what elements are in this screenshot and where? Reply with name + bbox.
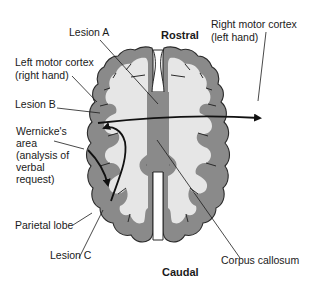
right-hemisphere (163, 47, 230, 242)
left-hemisphere (87, 47, 154, 242)
wernicke-label-4: verbal (16, 161, 45, 174)
wernicke-label-5: request) (16, 173, 55, 186)
brain-diagram: Lesion A Rostral Right motor cortex (lef… (0, 0, 316, 287)
caudal-label: Caudal (162, 266, 199, 279)
brain-section-illustration (0, 0, 316, 287)
right-motor-cortex-sublabel: (left hand) (211, 31, 258, 44)
longitudinal-fissure-caudal (153, 172, 163, 240)
left-motor-cortex-sublabel: (right hand) (15, 69, 69, 82)
left-motor-cortex-label: Left motor cortex (15, 56, 94, 69)
longitudinal-fissure-rostral (152, 50, 164, 92)
lesion-b-label: Lesion B (15, 98, 56, 111)
parietal-lobe-label: Parietal lobe (15, 219, 73, 232)
lesion-c-label: Lesion C (50, 249, 91, 262)
rostral-label: Rostral (161, 29, 199, 42)
wernicke-label-3: (analysis of (16, 149, 69, 162)
right-motor-cortex-label: Right motor cortex (211, 18, 297, 31)
wernicke-label-2: area (16, 137, 37, 150)
wernicke-label-1: Wernicke's (16, 125, 67, 138)
corpus-callosum-label: Corpus callosum (221, 254, 299, 267)
lesion-a-label: Lesion A (69, 26, 109, 39)
